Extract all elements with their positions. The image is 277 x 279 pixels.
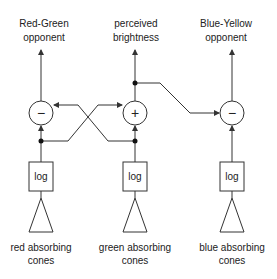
svg-text:cones: cones (122, 255, 149, 266)
svg-text:cones: cones (219, 255, 246, 266)
log-label-blue: log (225, 171, 238, 182)
junction-dot-green (133, 139, 138, 144)
svg-text:Red-Green: Red-Green (19, 18, 68, 29)
cone-triangle-red (29, 198, 53, 232)
svg-text:cones: cones (28, 255, 55, 266)
label-blue-yellow-opponent: Blue-Yellow opponent (200, 18, 253, 43)
log-label-green: log (128, 171, 141, 182)
log-label-red: log (34, 171, 47, 182)
operator-symbol-red-green: − (37, 105, 45, 121)
svg-text:green absorbing: green absorbing (99, 242, 171, 253)
cone-triangle-green (123, 198, 147, 232)
cone-triangle-blue (220, 198, 244, 232)
junction-dot-red (39, 139, 44, 144)
junction-dot-brightness (133, 81, 138, 86)
svg-text:Blue-Yellow: Blue-Yellow (200, 18, 253, 29)
operator-symbol-blue-yellow: − (228, 105, 236, 121)
svg-text:red absorbing: red absorbing (10, 242, 71, 253)
svg-text:opponent: opponent (205, 32, 247, 43)
svg-text:blue absorbing: blue absorbing (199, 242, 265, 253)
svg-text:brightness: brightness (113, 32, 159, 43)
label-perceived-brightness: perceived brightness (113, 18, 159, 43)
label-red-absorbing-cones: red absorbing cones (10, 242, 71, 266)
svg-text:perceived: perceived (114, 18, 157, 29)
opponent-process-diagram: Red-Green opponent perceived brightness … (0, 0, 277, 279)
connector-brightness-to-blue-yellow (135, 83, 219, 113)
operator-symbol-brightness: + (131, 105, 139, 121)
label-red-green-opponent: Red-Green opponent (19, 18, 68, 43)
label-blue-absorbing-cones: blue absorbing cones (199, 242, 265, 266)
label-green-absorbing-cones: green absorbing cones (99, 242, 171, 266)
svg-text:opponent: opponent (23, 32, 65, 43)
